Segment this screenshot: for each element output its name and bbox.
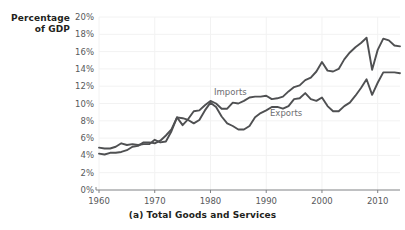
y-tick-label-4%: 4% — [68, 150, 94, 160]
y-tick-label-18%: 18% — [68, 29, 94, 39]
x-tick-label-1970: 1970 — [135, 196, 175, 206]
x-tick-label-1980: 1980 — [190, 196, 230, 206]
x-tick-label-2000: 2000 — [302, 196, 342, 206]
data-series-group — [99, 38, 400, 155]
x-tick-label-1960: 1960 — [79, 196, 119, 206]
x-axis — [96, 187, 400, 193]
y-tick-label-16%: 16% — [68, 47, 94, 57]
y-tick-label-14%: 14% — [68, 64, 94, 74]
y-tick-label-12%: 12% — [68, 81, 94, 91]
y-tick-label-8%: 8% — [68, 116, 94, 126]
x-tick-label-2010: 2010 — [358, 196, 398, 206]
y-tick-label-10%: 10% — [68, 99, 94, 109]
y-tick-label-0%: 0% — [68, 185, 94, 195]
y-tick-label-2%: 2% — [68, 168, 94, 178]
y-tick-label-20%: 20% — [68, 12, 94, 22]
x-tick-label-1990: 1990 — [246, 196, 286, 206]
figure-caption: (a) Total Goods and Services — [0, 210, 405, 220]
chart-figure: Percentage of GDP 20%18%16%14%12%10%8%6%… — [0, 0, 405, 230]
series-label-imports: Imports — [214, 87, 247, 97]
series-label-exports: Exports — [270, 108, 302, 118]
series-line-exports — [99, 72, 400, 148]
horizontal-gridlines — [99, 17, 400, 173]
y-tick-label-6%: 6% — [68, 133, 94, 143]
